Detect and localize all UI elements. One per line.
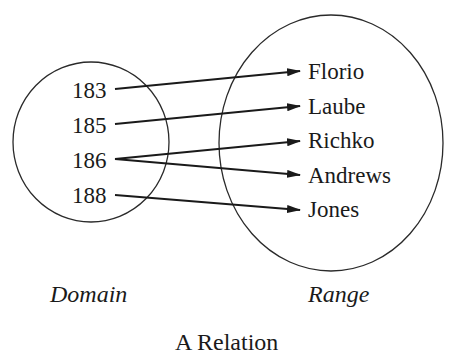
diagram-title: A Relation (175, 329, 278, 355)
range-item: Richko (308, 128, 374, 153)
domain-item: 188 (72, 183, 107, 208)
mapping-arrow (115, 141, 300, 159)
domain-item: 185 (72, 113, 107, 138)
relation-diagram: 183 185 186 188 Florio Laube Richko Andr… (0, 0, 451, 358)
mapping-arrow (115, 159, 300, 175)
range-item: Florio (308, 59, 364, 84)
range-item: Andrews (308, 163, 391, 188)
domain-label: Domain (49, 281, 127, 307)
mapping-arrow (115, 106, 300, 124)
domain-item: 183 (72, 78, 107, 103)
range-item: Laube (308, 94, 365, 119)
range-item: Jones (308, 197, 359, 222)
domain-item: 186 (72, 148, 107, 173)
range-label: Range (307, 281, 370, 307)
mapping-arrow (115, 71, 300, 89)
